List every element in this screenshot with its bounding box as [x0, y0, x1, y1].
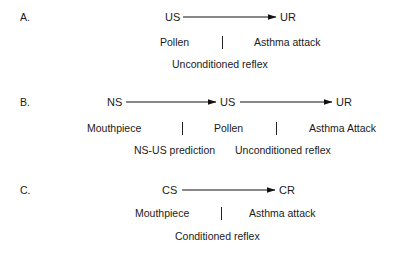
- relation-ns-us-prediction: NS-US prediction: [134, 144, 215, 156]
- panel-label: B.: [20, 96, 30, 108]
- stimulus-mouthpiece: Mouthpiece: [135, 207, 189, 219]
- relation-conditioned-reflex: Conditioned reflex: [175, 230, 260, 242]
- node-ur: UR: [280, 11, 296, 23]
- node-us: US: [165, 11, 180, 23]
- divider: [182, 122, 183, 135]
- panel-label: A.: [20, 11, 30, 23]
- node-cs: CS: [162, 184, 177, 196]
- stimulus-mouthpiece: Mouthpiece: [87, 122, 141, 134]
- response-asthma-attack: Asthma Attack: [309, 122, 376, 134]
- response-asthma-attack: Asthma attack: [254, 36, 321, 48]
- relation-unconditioned-reflex: Unconditioned reflex: [235, 144, 331, 156]
- response-asthma-attack: Asthma attack: [249, 207, 316, 219]
- relation-unconditioned-reflex: Unconditioned reflex: [172, 58, 268, 70]
- node-ns: NS: [107, 96, 122, 108]
- node-cr: CR: [279, 184, 295, 196]
- stimulus-pollen: Pollen: [160, 36, 189, 48]
- divider: [222, 36, 223, 49]
- divider: [276, 122, 277, 135]
- node-us: US: [220, 96, 235, 108]
- stimulus-pollen: Pollen: [214, 122, 243, 134]
- panel-label: C.: [20, 184, 31, 196]
- node-ur: UR: [336, 96, 352, 108]
- divider: [221, 207, 222, 220]
- conditioning-diagram: A. US UR Pollen Asthma attack Unconditio…: [0, 0, 404, 259]
